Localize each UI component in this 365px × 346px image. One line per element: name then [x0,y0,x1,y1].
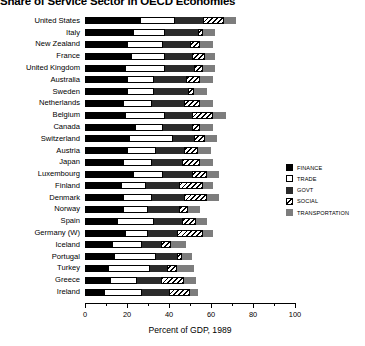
stacked-bar [85,218,207,225]
bar-segment-trade [131,53,165,60]
bar-segment-trade [112,241,141,248]
bar-row [85,124,295,131]
bar-segment-finance [85,171,133,178]
bar-segment-transportation [213,112,226,119]
bar-segment-social [169,289,190,296]
bar-segment-transportation [182,253,193,260]
bar-segment-trade [135,124,162,131]
stacked-bar [85,124,213,131]
bar-row [85,241,295,248]
bar-row [85,230,295,237]
bar-segment-govt [137,277,160,284]
y-axis-label: Spain [0,217,80,225]
bar-segment-govt [148,230,177,237]
y-axis-label: Sweden [0,88,80,96]
bar-segment-finance [85,65,125,72]
bar-row [85,88,295,95]
bar-segment-trade [108,265,150,272]
bar-segment-transportation [200,159,213,166]
bar-segment-social [179,206,187,213]
bar-segment-trade [123,194,152,201]
bar-segment-trade [127,88,154,95]
bar-segment-govt [165,65,194,72]
y-axis-label: Norway [0,205,80,213]
stacked-bar [85,182,213,189]
bar-segment-social [182,218,197,225]
bar-segment-finance [85,289,104,296]
bar-row [85,159,295,166]
bar-segment-govt [150,265,167,272]
bar-row [85,135,295,142]
stacked-bar [85,159,213,166]
bar-segment-transportation [207,194,220,201]
bar-segment-trade [129,135,173,142]
bar-segment-govt [165,29,199,36]
x-minor-tick [106,303,107,306]
bar-segment-transportation [200,124,213,131]
bar-segment-trade [110,277,137,284]
legend-swatch-social [286,198,293,205]
bar-segment-social [192,53,205,60]
bar-segment-govt [154,88,188,95]
stacked-bar [85,230,213,237]
stacked-bar [85,265,194,272]
legend-item: TRADE [286,174,349,184]
legend-swatch-trade [286,175,293,182]
bar-segment-finance [85,206,123,213]
y-axis-label: Germany (W) [0,229,80,237]
stacked-bar [85,171,219,178]
bar-segment-govt [142,289,169,296]
bar-row [85,112,295,119]
bar-segment-finance [85,112,125,119]
y-axis-label: Austria [0,147,80,155]
stacked-bar [85,17,236,24]
bar-segment-social [203,17,224,24]
bar-row [85,100,295,107]
bar-segment-govt [154,218,181,225]
bar-segment-finance [85,88,127,95]
bar-segment-transportation [203,65,216,72]
bar-row [85,65,295,72]
y-axis-label: Portugal [0,253,80,261]
bar-segment-govt [152,159,181,166]
bar-segment-govt [165,112,192,119]
bar-segment-finance [85,230,125,237]
bar-segment-finance [85,182,121,189]
bar-segment-transportation [205,135,218,142]
stacked-bar [85,277,196,284]
bar-segment-trade [117,218,155,225]
stacked-bar [85,112,226,119]
bar-segment-social [184,100,201,107]
bar-segment-govt [148,206,180,213]
stacked-bar [85,253,192,260]
stacked-bar [85,241,186,248]
chart-title: Share of Service Sector in OECD Economie… [0,0,300,7]
y-axis-label: Denmark [0,194,80,202]
x-minor-tick [190,303,191,306]
stacked-bar [85,88,207,95]
bar-segment-transportation [190,289,198,296]
bar-segment-govt [146,182,180,189]
stacked-bar [85,41,213,48]
bar-segment-social [192,112,213,119]
bar-segment-finance [85,194,123,201]
bar-segment-finance [85,100,123,107]
bar-segment-trade [123,159,152,166]
bar-segment-govt [163,124,192,131]
stacked-bar [85,53,215,60]
bar-segment-govt [152,194,184,201]
bar-row [85,41,295,48]
bar-segment-finance [85,265,108,272]
bar-segment-transportation [200,100,213,107]
bar-segment-trade [127,76,154,83]
legend-label: TRANSPORTATION [297,210,349,216]
bar-segment-social [182,159,201,166]
bar-segment-trade [114,253,156,260]
y-axis-label: Canada [0,123,80,131]
bar-segment-trade [125,230,148,237]
bar-segment-trade [125,65,165,72]
y-axis-label: Iceland [0,241,80,249]
bar-segment-social [179,182,202,189]
bar-segment-transportation [196,218,207,225]
bar-row [85,53,295,60]
